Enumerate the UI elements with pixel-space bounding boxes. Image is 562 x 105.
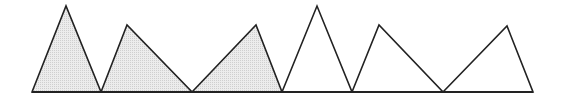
triangle-diagram (0, 0, 562, 105)
unshaded-triangle-5 (352, 25, 443, 92)
shaded-triangle-1 (32, 6, 101, 92)
shaded-triangle-3 (192, 25, 282, 92)
triangles-group (32, 6, 533, 92)
unshaded-triangle-4 (282, 6, 352, 92)
shaded-triangle-2 (101, 25, 192, 92)
unshaded-triangle-6 (443, 26, 533, 92)
